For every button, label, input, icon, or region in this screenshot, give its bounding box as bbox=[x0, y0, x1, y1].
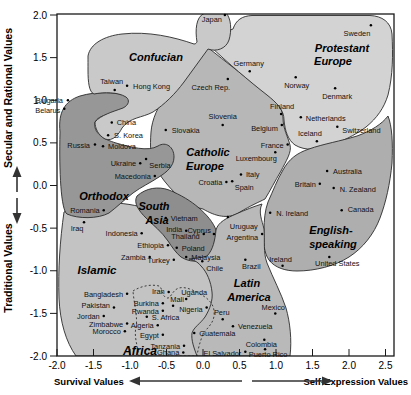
y-tick-label: 0.0 bbox=[33, 180, 47, 191]
x-tick-label: -1.0 bbox=[121, 360, 139, 371]
country-label: Belarus bbox=[35, 106, 60, 115]
country-label: Peru bbox=[214, 308, 230, 317]
region-label-catholic-europe: Catholic bbox=[186, 146, 229, 158]
country-dot bbox=[244, 350, 247, 353]
country-netherlands: Netherlands bbox=[300, 114, 346, 123]
country-dot bbox=[126, 322, 129, 325]
country-dot bbox=[319, 183, 322, 186]
country-label: Egypt bbox=[140, 331, 159, 340]
country-label: Uganda bbox=[181, 288, 208, 297]
country-dot bbox=[162, 333, 165, 336]
country-dot bbox=[261, 233, 264, 236]
country-dot bbox=[248, 70, 251, 73]
country-dot bbox=[63, 108, 66, 111]
country-label: Vietnam bbox=[171, 214, 198, 223]
country-label: Puerto Rico bbox=[249, 350, 288, 359]
country-dot bbox=[334, 87, 337, 90]
country-label: Turkey bbox=[147, 256, 170, 265]
country-label: China bbox=[117, 118, 137, 127]
country-label: Iraq bbox=[71, 224, 84, 233]
country-label: Ghana bbox=[157, 348, 180, 357]
country-guatemala: Guatemala bbox=[193, 329, 236, 338]
country-label: Finland bbox=[270, 102, 294, 111]
country-dot bbox=[227, 78, 230, 81]
y-tick-label: -1.5 bbox=[30, 308, 48, 319]
country-label: Macedonia bbox=[115, 172, 152, 181]
country-dot bbox=[294, 76, 297, 79]
country-dot bbox=[126, 85, 129, 88]
x-tick-label: -2.0 bbox=[48, 360, 66, 371]
country-label: Uruguay bbox=[230, 222, 258, 231]
country-dot bbox=[167, 244, 170, 247]
country-dot bbox=[193, 332, 196, 335]
country-label: Croatia bbox=[199, 178, 224, 187]
country-hong-kong: Hong Kong bbox=[126, 82, 170, 91]
country-dot bbox=[221, 124, 224, 127]
country-label: Sweden bbox=[344, 29, 371, 38]
country-dot bbox=[370, 24, 373, 27]
country-macedonia: Macedonia bbox=[115, 172, 156, 181]
country-dot bbox=[213, 233, 216, 236]
country-label: N. Ireland bbox=[276, 209, 308, 218]
region-label-latin-america: Latin bbox=[234, 277, 261, 289]
country-dot bbox=[201, 260, 204, 263]
region-label-south-asia: South bbox=[138, 200, 169, 212]
country-switzerland: Switzerland bbox=[336, 125, 380, 134]
y-tick-label: 2.0 bbox=[33, 10, 47, 21]
country-label: Netherlands bbox=[306, 114, 346, 123]
country-label: Slovakia bbox=[172, 126, 201, 135]
country-el-salvador: El Salvador bbox=[204, 349, 247, 358]
country-dot bbox=[205, 306, 208, 309]
country-label: Czech Rep. bbox=[192, 83, 231, 92]
x-tick-label: 1.0 bbox=[269, 360, 283, 371]
country-dot bbox=[146, 316, 149, 319]
country-dot bbox=[173, 258, 176, 261]
country-label: Iran bbox=[152, 287, 165, 296]
country-label: El Salvador bbox=[204, 349, 242, 358]
country-label: Thailand bbox=[171, 232, 199, 241]
country-bangladesh: Bangladesh bbox=[84, 290, 128, 299]
country-label: Zambia bbox=[121, 253, 147, 262]
country-dot bbox=[225, 181, 228, 184]
country-label: Denmark bbox=[322, 92, 352, 101]
country-dot bbox=[145, 158, 148, 161]
country-dot bbox=[286, 143, 289, 146]
country-n-zealand: N. Zealand bbox=[332, 185, 375, 194]
country-dot bbox=[300, 116, 303, 119]
country-dot bbox=[269, 212, 272, 215]
country-label: Guatemala bbox=[199, 329, 236, 338]
country-label: Nigeria bbox=[179, 305, 203, 314]
country-label: Japan bbox=[202, 15, 222, 24]
country-dot bbox=[274, 312, 277, 315]
country-dot bbox=[175, 246, 178, 249]
country-dot bbox=[281, 124, 284, 127]
country-dot bbox=[107, 134, 110, 137]
country-label: Slovenia bbox=[209, 112, 238, 121]
country-label: Canada bbox=[348, 205, 375, 214]
country-dot bbox=[280, 113, 283, 116]
country-label: Britain bbox=[295, 180, 316, 189]
country-label: Colombia bbox=[246, 340, 278, 349]
country-dot bbox=[83, 221, 86, 224]
country-label: Pakistan bbox=[82, 301, 110, 310]
country-dot bbox=[94, 143, 97, 146]
country-label: France bbox=[261, 141, 284, 150]
country-label: Norway bbox=[284, 81, 309, 90]
x-tick-label: 0.5 bbox=[233, 360, 247, 371]
country-dot bbox=[162, 302, 165, 305]
country-label: Ethiopia bbox=[137, 241, 165, 250]
country-label: Taiwan bbox=[100, 77, 123, 86]
country-label: United States bbox=[315, 259, 360, 268]
x-tick-label: 0.0 bbox=[196, 360, 210, 371]
country-label: Spain bbox=[235, 183, 254, 192]
region-label-catholic-europe: Europe bbox=[186, 160, 224, 172]
country-dot bbox=[167, 291, 170, 294]
country-dot bbox=[224, 14, 227, 17]
country-label: Hong Kong bbox=[133, 82, 170, 91]
country-dot bbox=[227, 216, 230, 219]
country-puerto-rico: Puerto Rico bbox=[249, 348, 288, 359]
country-dot bbox=[316, 140, 319, 143]
country-label: Indonesia bbox=[106, 229, 139, 238]
country-dot bbox=[165, 129, 168, 132]
country-argentina: Argentina bbox=[226, 233, 263, 242]
